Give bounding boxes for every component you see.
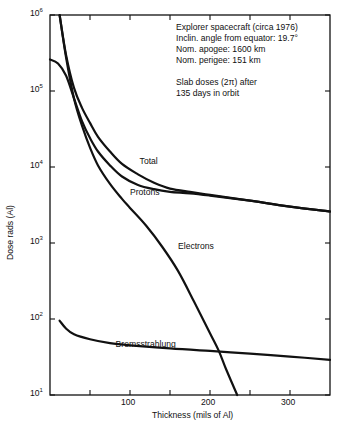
y-tick-label: 104: [30, 159, 43, 170]
x-tick-label: 200: [201, 397, 215, 407]
curve-label-bremsstrahlung: Bremsstrahlung: [116, 339, 176, 349]
y-axis-label: Dose rads (Al): [5, 205, 15, 260]
y-tick-label: 105: [30, 83, 43, 94]
curve-bremsstrahlung: [60, 321, 330, 360]
annotation-line: Slab doses (2π) after: [176, 77, 298, 88]
x-axis-label: Thickness (mils of Al): [152, 410, 233, 420]
y-tick-label: 103: [30, 235, 43, 246]
x-tick-label: 100: [121, 397, 135, 407]
curve-label-total: Total: [140, 156, 158, 166]
curve-label-electrons: Electrons: [178, 241, 214, 251]
x-tick-label: 300: [281, 397, 295, 407]
annotation-line: Inclin. angle from equator: 19.7°: [176, 33, 298, 44]
y-tick-label: 102: [30, 311, 43, 322]
annotation-block: Explorer spacecraft (circa 1976) Inclin.…: [176, 22, 298, 99]
annotation-line: Explorer spacecraft (circa 1976): [176, 22, 298, 33]
y-tick-label: 101: [30, 387, 43, 398]
annotation-line: Nom. perigee: 151 km: [176, 55, 298, 66]
annotation-line: [176, 66, 298, 77]
curve-label-protons: Protons: [130, 187, 160, 197]
annotation-line: Nom. apogee: 1600 km: [176, 44, 298, 55]
annotation-line: 135 days in orbit: [176, 88, 298, 99]
y-tick-label: 106: [30, 7, 43, 18]
